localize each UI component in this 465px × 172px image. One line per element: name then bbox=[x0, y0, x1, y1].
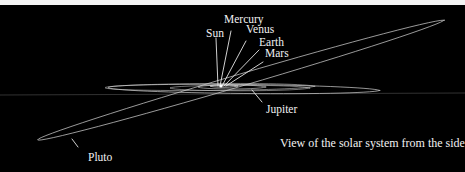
label-jupiter: Jupiter bbox=[266, 103, 297, 115]
pluto-orbit bbox=[36, 14, 446, 145]
sun-dot bbox=[219, 84, 222, 87]
label-venus: Venus bbox=[246, 23, 274, 35]
outer-orbits bbox=[0, 83, 465, 95]
diagram-caption: View of the solar system from the side bbox=[280, 136, 465, 151]
label-sun: Sun bbox=[206, 27, 224, 39]
solar-system-diagram: Sun Mercury Venus Earth Mars Jupiter Plu… bbox=[0, 5, 465, 172]
label-mars: Mars bbox=[265, 47, 289, 59]
label-pluto: Pluto bbox=[88, 151, 112, 163]
